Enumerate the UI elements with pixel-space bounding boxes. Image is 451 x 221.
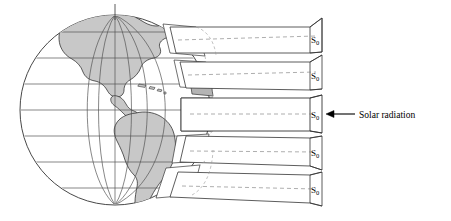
beam-equatorial: S0 (181, 95, 322, 133)
arrow-left-icon (326, 111, 334, 118)
solar-radiation-diagram: S0 S0 S0 S0 S0 (0, 0, 451, 221)
callout-label: Solar radiation (359, 110, 415, 120)
diagram-canvas: S0 S0 S0 S0 S0 (0, 0, 451, 221)
beam-north-mid: S0 (180, 55, 322, 90)
solar-radiation-callout: Solar radiation (326, 110, 415, 120)
beam-south-mid: S0 (180, 136, 322, 170)
beam-south-high: S0 (170, 172, 322, 206)
beam-north-high: S0 (170, 18, 322, 53)
